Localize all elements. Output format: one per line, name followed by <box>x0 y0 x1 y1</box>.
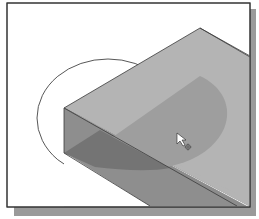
viewport-canvas[interactable] <box>0 0 259 219</box>
